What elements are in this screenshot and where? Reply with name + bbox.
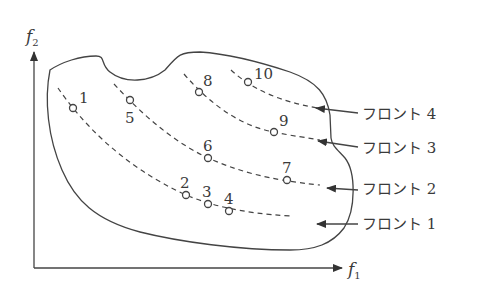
front-4-arrow (316, 108, 358, 113)
front-4-label: フロント 4 (362, 105, 436, 123)
solution-point-4: 4 (224, 190, 234, 215)
x-axis-label: f1 (346, 259, 361, 281)
solution-point-1: 1 (70, 89, 89, 112)
solution-point-2: 2 (180, 174, 190, 199)
solution-point-3: 3 (202, 183, 212, 208)
solution-point-8: 8 (196, 72, 213, 96)
svg-text:2: 2 (180, 174, 190, 192)
solution-point-7: 7 (282, 159, 292, 184)
front-1-curve (58, 88, 290, 216)
pareto-front-diagram: f2 f1 フロント 4 フロント 3 フロント 2 フロント 1 1 2 3 … (0, 0, 479, 295)
front-3-arrow (318, 141, 358, 147)
svg-text:3: 3 (202, 183, 212, 201)
svg-text:7: 7 (282, 159, 292, 177)
feasible-region (47, 52, 353, 250)
solution-point-10: 10 (245, 65, 274, 86)
svg-text:8: 8 (203, 72, 213, 90)
front-2-label: フロント 2 (362, 180, 436, 198)
front-4-curve (231, 70, 318, 108)
svg-text:4: 4 (224, 190, 234, 208)
svg-text:5: 5 (125, 109, 135, 127)
front-1-label: フロント 1 (362, 215, 436, 233)
svg-text:10: 10 (254, 65, 273, 83)
svg-text:1: 1 (79, 89, 89, 107)
y-axis-label: f2 (24, 26, 39, 48)
front-3-label: フロント 3 (362, 139, 436, 157)
solution-point-6: 6 (203, 137, 213, 162)
svg-text:6: 6 (203, 137, 213, 155)
solution-point-9: 9 (271, 112, 289, 136)
solution-point-5: 5 (125, 97, 135, 128)
svg-text:9: 9 (279, 112, 289, 130)
